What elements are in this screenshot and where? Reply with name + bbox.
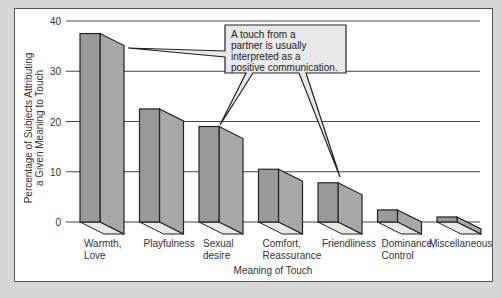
y-tick-label: 0 xyxy=(55,217,61,228)
bar xyxy=(140,109,184,234)
bar xyxy=(259,169,303,234)
x-category-label: Miscellaneous xyxy=(429,238,492,249)
x-category-label: Dominance,Control xyxy=(382,238,435,261)
x-axis-title: Meaning of Touch xyxy=(234,265,313,276)
bar xyxy=(437,217,481,234)
y-tick-label: 20 xyxy=(50,117,62,128)
x-category-label: Warmth,Love xyxy=(84,238,121,261)
x-category-label: Playfulness xyxy=(144,238,195,249)
x-category-label: Friendliness xyxy=(322,238,376,249)
y-tick-label: 40 xyxy=(50,16,62,27)
bar xyxy=(318,183,362,234)
bar xyxy=(378,210,422,234)
bar-chart: 010203040Percentage of Subjects Attribut… xyxy=(0,0,501,298)
y-tick-label: 30 xyxy=(50,66,62,77)
bar xyxy=(80,34,124,234)
x-category-label: Comfort,Reassurance xyxy=(263,238,322,261)
y-axis-title: Percentage of Subjects Attributinga Give… xyxy=(23,53,45,204)
y-tick-label: 10 xyxy=(50,167,62,178)
bar xyxy=(199,127,243,234)
x-category-label: Sexualdesire xyxy=(203,238,234,261)
